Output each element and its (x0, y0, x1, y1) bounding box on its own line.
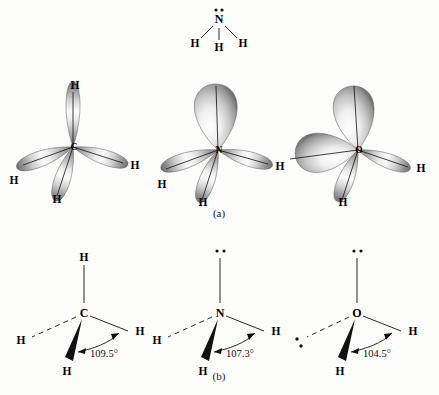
orbital-hydrogen-label: H (71, 79, 80, 91)
geometry-hydrogen-label: H (272, 325, 281, 337)
orbital-hydrogen-label: H (417, 162, 426, 174)
lone-pair-dashed-left (307, 317, 349, 337)
bond-angle-label: 107.3° (226, 348, 254, 359)
bond-angle-label: 109.5° (90, 348, 118, 359)
nitrogen-orbital-lobes (159, 83, 275, 205)
lewis-bond-right (225, 26, 237, 38)
lewis-center-atom-label: N (215, 12, 224, 26)
geometry-hydrogen-label: H (17, 334, 26, 346)
orbital-center-atom-label: N (216, 145, 223, 155)
figure-canvas: N H H H C H H H H (0, 0, 439, 395)
bond-right (226, 316, 264, 331)
lewis-hydrogen-label: H (215, 41, 224, 53)
orbital-center-atom-label: O (355, 145, 362, 155)
geometry-hydrogen-label: H (80, 251, 89, 263)
ammonia-lewis-structure: N H H H (191, 8, 248, 53)
bond-dashed-left (168, 317, 212, 337)
lone-pair-dot (222, 249, 225, 252)
lone-pair-dot (359, 249, 362, 252)
orbital-lobe-right (355, 143, 412, 176)
lewis-hydrogen-label: H (239, 37, 248, 49)
orbital-hydrogen-label: H (158, 178, 167, 190)
orbital-hydrogen-label: H (53, 193, 62, 205)
panel-b-label: (b) (199, 370, 239, 382)
angle-arrowhead (78, 348, 86, 354)
bond-wedge-down (65, 319, 82, 361)
geometry-center-atom-label: N (216, 306, 225, 320)
orbital-hydrogen-label: H (131, 159, 140, 171)
oxygen-orbital: O H H (290, 84, 426, 208)
geometry-hydrogen-label: H (409, 325, 418, 337)
nitrogen-geometry: N H H H 107.3° (153, 249, 281, 377)
lone-pair-dot (295, 337, 298, 340)
geometry-hydrogen-label: H (336, 365, 345, 377)
oxygen-orbital-lobes (290, 84, 413, 204)
orbital-hydrogen-label: H (10, 174, 19, 186)
angle-arrowhead (351, 348, 359, 354)
bond-angle-label: 104.5° (363, 348, 391, 359)
bond-right (90, 316, 128, 331)
lewis-hydrogen-label: H (191, 37, 200, 49)
bond-right (363, 316, 401, 331)
lone-pair-dot (299, 344, 302, 347)
lewis-bond-left (201, 26, 213, 38)
lone-pair-dot (215, 249, 218, 252)
carbon-geometry: H C H H H 109.5° (17, 251, 145, 377)
geometry-hydrogen-label: H (136, 325, 145, 337)
nitrogen-orbital: N H H H (158, 83, 285, 208)
orbital-hydrogen-label: H (339, 196, 348, 208)
bond-dashed-left (32, 317, 76, 337)
geometry-center-atom-label: C (80, 306, 89, 320)
lone-pair-dot (352, 249, 355, 252)
orbital-hydrogen-label: H (276, 160, 285, 172)
carbon-orbital: C H H H H (10, 79, 140, 205)
bond-wedge-down (201, 319, 218, 361)
chemistry-figure-svg: N H H H C H H H H (0, 0, 439, 395)
orbital-center-atom-label: C (71, 142, 78, 152)
geometry-center-atom-label: O (352, 306, 361, 320)
bond-wedge-down (338, 319, 355, 361)
panel-a-label: (a) (199, 207, 239, 219)
angle-arrowhead (214, 348, 222, 354)
geometry-hydrogen-label: H (63, 365, 72, 377)
geometry-hydrogen-label: H (153, 334, 162, 346)
oxygen-geometry: O H H 104.5° (295, 249, 417, 377)
